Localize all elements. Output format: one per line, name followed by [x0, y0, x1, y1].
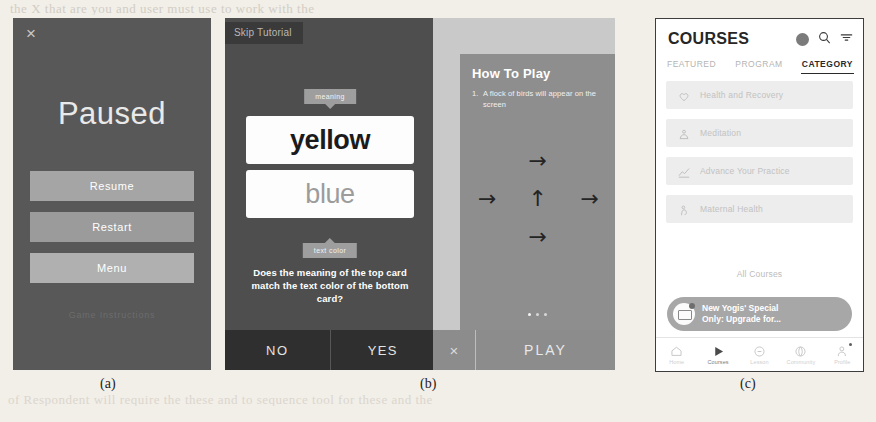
pager-dot[interactable]: [536, 313, 539, 316]
paused-screen: × Paused Resume Restart Menu Game Instru…: [13, 18, 211, 370]
promo-toast[interactable]: New Yogis' Special Only: Upgrade for...: [667, 297, 852, 331]
nav-item-home[interactable]: Home: [656, 344, 697, 365]
nav-item-profile[interactable]: Profile: [822, 344, 863, 365]
list-item-label: Meditation: [700, 128, 741, 138]
category-list: Health and Recovery Meditation Advance Y…: [666, 81, 853, 233]
list-item[interactable]: Maternal Health: [666, 195, 853, 223]
search-icon[interactable]: [818, 30, 831, 48]
how-to-play-sheet: How To Play 1. A flock of birds will app…: [460, 54, 615, 330]
promo-line-1: New Yogis' Special: [702, 303, 778, 313]
arrow-right-icon: →: [529, 150, 547, 172]
arrow-right-icon: →: [529, 226, 547, 248]
tab-featured[interactable]: FEATURED: [667, 59, 716, 69]
stroop-word-bottom: blue: [305, 179, 354, 210]
how-to-play-screen: How To Play 1. A flock of birds will app…: [433, 18, 615, 370]
list-item[interactable]: Advance Your Practice: [666, 157, 853, 185]
nav-label: Home: [669, 359, 684, 365]
stroop-word-top: yellow: [290, 125, 370, 156]
answer-no-button[interactable]: NO: [225, 330, 330, 370]
scan-bleed-bottom: of Respondent will require the these and…: [8, 392, 868, 406]
clock-icon: [753, 344, 766, 357]
maternal-icon: [678, 203, 690, 215]
how-to-play-action-bar: × PLAY: [433, 330, 615, 370]
tab-program[interactable]: PROGRAM: [735, 59, 782, 69]
how-to-play-step: 1. A flock of birds will appear on the s…: [472, 88, 608, 110]
step-number: 1.: [472, 88, 478, 99]
heart-icon: [678, 89, 690, 101]
avatar[interactable]: [796, 33, 809, 46]
bottom-navigation: Home Courses Lesson: [656, 337, 863, 371]
envelope-icon: [673, 303, 695, 325]
page-title: COURSES: [668, 30, 796, 48]
tab-bar: FEATURED PROGRAM CATEGORY: [667, 55, 853, 73]
stroop-card-top[interactable]: yellow: [246, 116, 414, 164]
arrow-up-icon: ↑: [529, 188, 547, 210]
arrow-right-icon: →: [581, 188, 599, 210]
tab-category[interactable]: CATEGORY: [802, 59, 853, 69]
game-instructions-link[interactable]: Game Instructions: [13, 310, 211, 320]
list-item-label: Maternal Health: [700, 204, 763, 214]
scan-bleed-top: the X that are you and user must use to …: [10, 1, 710, 15]
stroop-card-bottom[interactable]: blue: [246, 170, 414, 218]
meditation-icon: [678, 127, 690, 139]
close-icon[interactable]: ×: [23, 26, 39, 42]
profile-icon: [836, 344, 849, 357]
chart-icon: [678, 165, 690, 177]
pager-dot[interactable]: [528, 313, 531, 316]
tutorial-question: Does the meaning of the top card match t…: [239, 266, 421, 305]
nav-label: Courses: [708, 359, 729, 365]
nav-label: Lesson: [750, 359, 768, 365]
answer-yes-button[interactable]: YES: [330, 330, 436, 370]
tutorial-screen: Skip Tutorial meaning yellow blue text c…: [225, 18, 435, 370]
play-icon: [712, 344, 725, 357]
globe-icon: [794, 344, 807, 357]
restart-button[interactable]: Restart: [30, 212, 194, 242]
filter-icon[interactable]: [840, 30, 853, 48]
arrow-right-icon: →: [478, 188, 496, 210]
courses-screen: COURSES FEATURED PROGRAM CATEGORY: [655, 18, 864, 372]
tooltip-meaning: meaning: [304, 89, 356, 104]
how-to-play-title: How To Play: [472, 66, 551, 81]
nav-label: Profile: [834, 359, 850, 365]
flanker-arrow-group: → → ↑ → →: [460, 150, 615, 260]
page-title: Paused: [13, 96, 211, 132]
list-item[interactable]: Meditation: [666, 119, 853, 147]
play-button[interactable]: PLAY: [476, 330, 615, 370]
pager-dot[interactable]: [544, 313, 547, 316]
list-item-label: Advance Your Practice: [700, 166, 790, 176]
home-icon: [670, 344, 683, 357]
menu-button[interactable]: Menu: [30, 253, 194, 283]
list-item-label: Health and Recovery: [700, 90, 783, 100]
notification-badge: [849, 343, 852, 346]
nav-item-courses[interactable]: Courses: [697, 344, 738, 365]
close-icon[interactable]: ×: [433, 330, 476, 370]
caption-a: (a): [100, 376, 116, 392]
tooltip-text-color: text color: [303, 243, 357, 258]
header-icon-group: [796, 30, 853, 48]
resume-button[interactable]: Resume: [30, 171, 194, 201]
nav-item-lesson[interactable]: Lesson: [739, 344, 780, 365]
pager-dots: [460, 313, 615, 316]
caption-b: (b): [420, 376, 436, 392]
skip-tutorial-button[interactable]: Skip Tutorial: [225, 22, 303, 44]
promo-toast-text: New Yogis' Special Only: Upgrade for...: [702, 303, 781, 326]
all-courses-link[interactable]: All Courses: [656, 269, 863, 279]
app-header: COURSES: [668, 28, 853, 50]
list-item[interactable]: Health and Recovery: [666, 81, 853, 109]
promo-line-2: Only: Upgrade for...: [702, 314, 781, 324]
nav-item-community[interactable]: Community: [780, 344, 821, 365]
nav-label: Community: [787, 359, 816, 365]
answer-bar: NO YES: [225, 330, 435, 370]
step-text: A flock of birds will appear on the scre…: [483, 88, 608, 110]
caption-c: (c): [740, 376, 756, 392]
